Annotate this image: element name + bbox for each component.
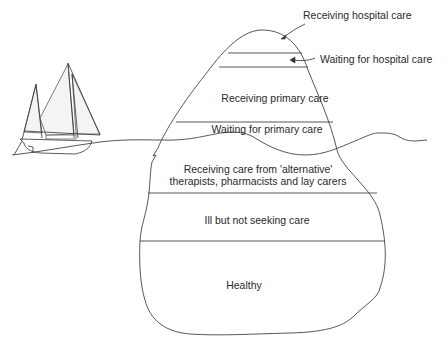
waterline — [12, 132, 427, 155]
label-alternative-care-line1: Receiving care from 'alternative' — [184, 163, 333, 175]
label-waiting-primary-care: Waiting for primary care — [211, 123, 322, 135]
leader-receiving-hospital — [283, 24, 305, 38]
arrow-waiting-hospital — [290, 57, 295, 63]
label-receiving-hospital-care: Receiving hospital care — [303, 9, 412, 21]
label-waiting-hospital-care: Waiting for hospital care — [320, 53, 432, 65]
label-healthy: Healthy — [226, 279, 262, 291]
label-alternative-care-line2: therapists, pharmacists and lay carers — [170, 175, 347, 187]
sailboat-illustration — [14, 63, 100, 155]
label-receiving-primary-care: Receiving primary care — [221, 92, 329, 104]
label-ill-not-seeking-care: Ill but not seeking care — [204, 214, 309, 226]
iceberg-diagram: Receiving hospital care Waiting for hosp… — [0, 0, 448, 347]
